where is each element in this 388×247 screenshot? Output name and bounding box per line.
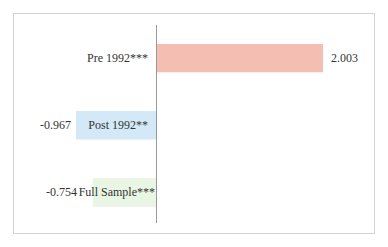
- category-label-pre-1992: Pre 1992***: [87, 51, 148, 65]
- category-label-post-1992: Post 1992**: [88, 118, 148, 132]
- bar-pre-1992: [157, 44, 323, 72]
- category-label-full-sample: Full Sample***: [79, 185, 155, 199]
- value-label-pre-1992: 2.003: [331, 51, 358, 65]
- value-label-full-sample: -0.754: [46, 185, 77, 199]
- value-label-post-1992: -0.967: [40, 118, 71, 132]
